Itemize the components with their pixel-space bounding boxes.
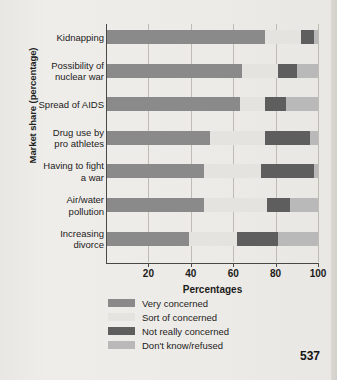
bar-segment xyxy=(189,232,238,246)
bar-segment xyxy=(204,164,261,178)
plot-area xyxy=(106,24,318,262)
x-tick-label-60: 60 xyxy=(215,268,251,279)
category-label: Drug use by pro athletes xyxy=(8,127,104,150)
page-number: 537 xyxy=(300,349,320,363)
x-tick-mark-100 xyxy=(318,263,319,267)
bar-segment xyxy=(106,198,204,212)
x-tick-label-100: 100 xyxy=(300,268,336,279)
bar-segment xyxy=(106,232,189,246)
bar-segment xyxy=(286,97,318,111)
legend-label: Not really concerned xyxy=(142,326,229,337)
category-label: Air/water pollution xyxy=(8,194,104,217)
legend-swatch xyxy=(108,313,135,321)
bar-segment xyxy=(237,232,277,246)
legend-swatch xyxy=(108,327,135,335)
y-axis-line xyxy=(106,24,107,264)
chart-legend: Very concernedSort of concernedNot reall… xyxy=(108,296,229,352)
x-tick-mark-80 xyxy=(276,263,277,267)
x-tick-mark-20 xyxy=(148,263,149,267)
bar-segment xyxy=(240,97,265,111)
bar-row xyxy=(106,232,318,246)
legend-label: Sort of concerned xyxy=(142,312,217,323)
page-edge-shadow xyxy=(331,0,337,380)
bar-segment xyxy=(297,64,318,78)
bar-segment xyxy=(265,97,286,111)
x-tick-label-20: 20 xyxy=(130,268,166,279)
bar-segment xyxy=(314,30,318,44)
legend-label: Don't know/refused xyxy=(142,340,223,351)
category-label: Spread of AIDS xyxy=(8,99,104,111)
x-axis-title: Percentages xyxy=(106,284,319,295)
bar-segment xyxy=(106,30,265,44)
legend-item: Not really concerned xyxy=(108,324,229,338)
bar-segment xyxy=(278,64,297,78)
category-label: Possibility of nuclear war xyxy=(8,60,104,83)
bar-segment xyxy=(106,131,210,145)
bar-segment xyxy=(310,131,318,145)
x-tick-label-80: 80 xyxy=(258,268,294,279)
bar-row xyxy=(106,198,318,212)
x-tick-mark-40 xyxy=(191,263,192,267)
bar-segment xyxy=(278,232,318,246)
bar-segment xyxy=(210,131,265,145)
x-tick-label-40: 40 xyxy=(173,268,209,279)
category-label: Increasing divorce xyxy=(8,228,104,251)
bar-segment xyxy=(267,198,290,212)
bar-segment xyxy=(204,198,268,212)
bar-segment xyxy=(301,30,314,44)
bar-segment xyxy=(106,164,204,178)
category-label: Kidnapping xyxy=(8,32,104,44)
gridline-100 xyxy=(318,24,319,262)
legend-item: Don't know/refused xyxy=(108,338,229,352)
bar-segment xyxy=(106,97,240,111)
x-axis-line xyxy=(106,263,319,264)
bar-row xyxy=(106,131,318,145)
bar-row xyxy=(106,64,318,78)
bar-row xyxy=(106,97,318,111)
category-label: Having to fight a war xyxy=(8,160,104,183)
bar-segment xyxy=(265,131,310,145)
bar-segment xyxy=(261,164,314,178)
bar-segment xyxy=(314,164,318,178)
bar-segment xyxy=(106,64,242,78)
bar-segment xyxy=(290,198,318,212)
bar-row xyxy=(106,164,318,178)
bar-segment xyxy=(265,30,301,44)
legend-item: Very concerned xyxy=(108,296,229,310)
legend-swatch xyxy=(108,299,135,307)
bar-segment xyxy=(242,64,278,78)
legend-swatch xyxy=(108,341,135,349)
legend-label: Very concerned xyxy=(142,298,208,309)
legend-item: Sort of concerned xyxy=(108,310,229,324)
bar-row xyxy=(106,30,318,44)
x-tick-mark-60 xyxy=(233,263,234,267)
